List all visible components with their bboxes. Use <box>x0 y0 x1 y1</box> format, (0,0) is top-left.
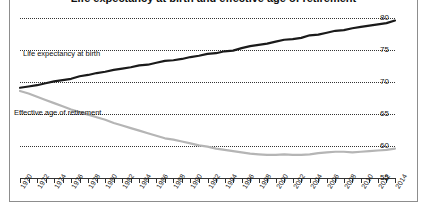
line-effective-retirement-age <box>20 91 395 155</box>
plot-area <box>20 18 395 178</box>
chart-title-text: Life expectancy at birth and effective a… <box>0 0 427 4</box>
y-axis-tick-label: 70 <box>380 78 389 86</box>
y-axis-tick-label: 60 <box>380 142 389 150</box>
series-label-effective-retirement-age: Effective age of retirement <box>14 108 101 117</box>
y-axis-tick-label: 65 <box>380 110 389 118</box>
chart-title: Life expectancy at birth and effective a… <box>0 0 427 5</box>
series-lines <box>20 18 395 178</box>
y-axis-tick-label: 75 <box>380 46 389 54</box>
chart-figure: Life expectancy at birth and effective a… <box>0 0 427 218</box>
y-axis-tick-label: 80 <box>380 14 389 22</box>
series-label-life-expectancy: Life expectancy at birth <box>23 49 100 58</box>
